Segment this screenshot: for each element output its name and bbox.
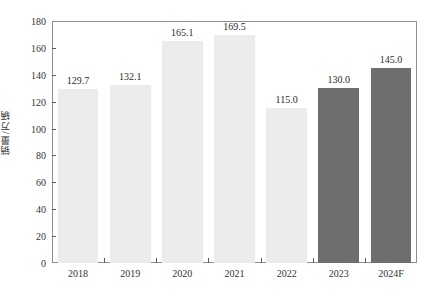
x-axis-tick-mark xyxy=(104,258,105,263)
y-axis-tick-mark xyxy=(52,102,56,103)
clipped-title-text xyxy=(24,0,224,6)
y-axis-tick-mark xyxy=(52,48,56,49)
x-axis-tick-label: 2018 xyxy=(50,268,106,279)
x-axis-tick-label: 2020 xyxy=(154,268,210,279)
y-axis-tick-label: 120 xyxy=(18,96,46,107)
y-axis-tick-mark xyxy=(52,209,56,210)
y-axis-tick-label: 60 xyxy=(18,177,46,188)
x-axis-tick-label: 2022 xyxy=(259,268,315,279)
bar-value-label: 169.5 xyxy=(207,21,263,32)
bar-2024F xyxy=(371,68,412,263)
bar-value-label: 130.0 xyxy=(311,74,367,85)
x-axis-tick-label: 2024F xyxy=(363,268,419,279)
y-axis-tick-label: 0 xyxy=(18,258,46,269)
x-axis-tick-label: 2019 xyxy=(102,268,158,279)
y-axis-tick-label: 20 xyxy=(18,231,46,242)
bar-2020 xyxy=(162,41,203,263)
x-axis-tick-mark xyxy=(365,258,366,263)
x-axis-tick-mark xyxy=(313,258,314,263)
y-axis-tick-label: 40 xyxy=(18,204,46,215)
y-axis-tick-label: 100 xyxy=(18,123,46,134)
x-axis-tick-mark xyxy=(208,258,209,263)
y-axis-tick-label: 160 xyxy=(18,42,46,53)
bar-value-label: 132.1 xyxy=(102,71,158,82)
y-axis-tick-label: 180 xyxy=(18,16,46,27)
bar-2021 xyxy=(214,35,255,263)
bar-2023 xyxy=(318,88,359,263)
y-axis-tick-mark xyxy=(52,155,56,156)
bar-value-label: 145.0 xyxy=(363,54,419,65)
y-axis-tick-label: 140 xyxy=(18,69,46,80)
bar-2022 xyxy=(266,108,307,263)
bar-2018 xyxy=(58,89,99,263)
y-axis-tick-mark xyxy=(52,236,56,237)
bar-value-label: 129.7 xyxy=(50,75,106,86)
bar-value-label: 165.1 xyxy=(154,27,210,38)
x-axis-tick-mark xyxy=(156,258,157,263)
y-axis-tick-mark xyxy=(52,182,56,183)
y-axis-tick-mark xyxy=(52,129,56,130)
x-axis-tick-label: 2021 xyxy=(207,268,263,279)
y-axis-tick-label: 80 xyxy=(18,150,46,161)
bar-chart: 销量/万辆 020406080100120140160180 201820192… xyxy=(0,0,433,302)
x-axis-tick-label: 2023 xyxy=(311,268,367,279)
bar-value-label: 115.0 xyxy=(259,94,315,105)
x-axis-tick-mark xyxy=(261,258,262,263)
y-axis-label: 销量/万辆 xyxy=(0,96,16,168)
bar-2019 xyxy=(110,85,151,263)
